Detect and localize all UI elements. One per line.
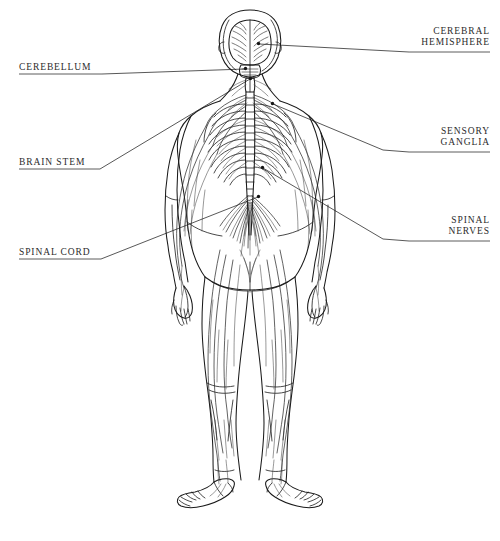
label-sensory-ganglia-line2: GANGLIA (440, 137, 490, 148)
nervous-system-figure: .ol { fill:none; stroke:#1a1a1a; stroke-… (0, 0, 500, 541)
label-spinal-nerves-line2: NERVES (448, 226, 490, 237)
label-spinal-cord: SPINAL CORD (19, 247, 91, 258)
label-cerebral-hemisphere-line2: HEMISPHERE (421, 37, 490, 48)
label-cerebral-hemisphere-line1: CEREBRAL (421, 26, 490, 37)
label-sensory-ganglia-line1: SENSORY (440, 126, 490, 137)
brachial-plexus (206, 95, 294, 154)
anatomy-illustration: .ol { fill:none; stroke:#1a1a1a; stroke-… (0, 0, 500, 541)
right-arm (283, 116, 335, 325)
left-arm (165, 116, 217, 325)
label-spinal-nerves-line1: SPINAL (448, 215, 490, 226)
right-leg (252, 250, 323, 508)
label-cerebellum: CEREBELLUM (19, 62, 91, 73)
spinal-nerves-thoracic (217, 120, 283, 179)
rib-cage (204, 104, 296, 185)
head-group (219, 10, 282, 101)
torso-outline (177, 101, 322, 292)
label-spinal-nerves: SPINAL NERVES (448, 215, 490, 236)
label-brain-stem: BRAIN STEM (19, 157, 85, 168)
label-cerebral-hemisphere: CEREBRAL HEMISPHERE (421, 26, 490, 47)
label-sensory-ganglia: SENSORY GANGLIA (440, 126, 490, 147)
left-leg (177, 250, 248, 508)
